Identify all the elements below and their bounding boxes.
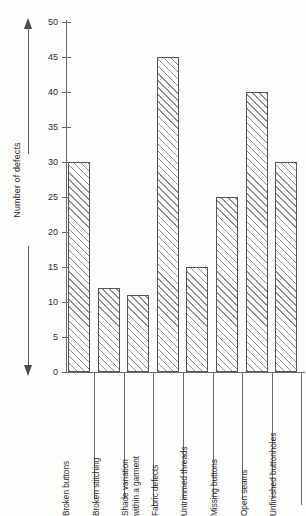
arrow-shaft-lower — [28, 246, 29, 374]
y-axis-title: Number of defects — [12, 135, 22, 225]
category-label: Fabric defects — [151, 465, 160, 516]
arrow-down-icon — [24, 365, 32, 376]
y-axis-tick-label: 5 — [34, 333, 58, 342]
category-label: Unfinished buttonholes — [269, 433, 278, 516]
y-axis-tick-label: 10 — [34, 298, 58, 307]
bar — [246, 92, 268, 372]
y-axis-tick-label: 20 — [34, 228, 58, 237]
bar — [127, 295, 149, 372]
category-label: Broken buttons — [62, 461, 71, 516]
y-axis-tick-label: 45 — [34, 53, 58, 62]
bar — [157, 57, 179, 372]
y-axis-tick-label: 50 — [34, 18, 58, 27]
category-label: Missing buttons — [210, 459, 219, 516]
y-axis-tick-label: 30 — [34, 158, 58, 167]
x-axis-baseline — [66, 372, 305, 373]
y-axis-tick-label: 35 — [34, 123, 58, 132]
y-axis-tick-label: 40 — [34, 88, 58, 97]
bar — [68, 162, 90, 372]
category-label: Shade variation — [121, 459, 130, 516]
arrow-shaft-upper — [28, 26, 29, 154]
category-label: within a garment — [132, 456, 141, 516]
category-divider — [301, 373, 302, 505]
y-axis-tick-label: 15 — [34, 263, 58, 272]
category-label: Open seams — [240, 470, 249, 516]
y-axis-tick-label: 0 — [34, 368, 58, 377]
bar — [98, 288, 120, 372]
category-label: Broken stitching — [92, 458, 101, 516]
y-axis-tick-label: 25 — [34, 193, 58, 202]
bar — [275, 162, 297, 372]
bar — [216, 197, 238, 372]
category-label: Untrimmed threads — [180, 446, 189, 516]
bars-container — [66, 22, 305, 372]
bar — [186, 267, 208, 372]
